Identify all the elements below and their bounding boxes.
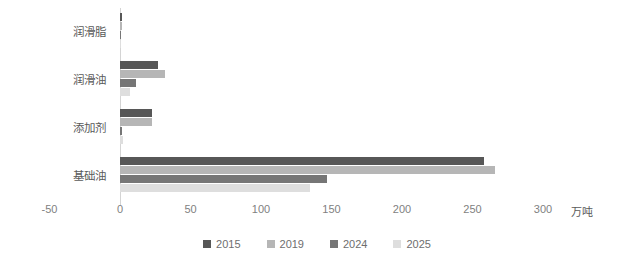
bar-2019-润滑脂 xyxy=(120,22,122,30)
chart-legend: 2015201920242025 xyxy=(0,238,634,250)
bar-2019-基础油 xyxy=(120,166,495,174)
category-label: 添加剂 xyxy=(0,122,114,135)
bar-group xyxy=(120,108,634,148)
x-tick-100: 100 xyxy=(252,203,270,215)
bar-2019-润滑油 xyxy=(120,70,165,78)
bar-2024-润滑油 xyxy=(120,79,136,87)
x-tick-150: 150 xyxy=(322,203,340,215)
x-tick--50: -50 xyxy=(42,203,58,215)
legend-item-2024[interactable]: 2024 xyxy=(330,238,367,250)
bar-2015-基础油 xyxy=(120,157,484,165)
x-tick-0: 0 xyxy=(117,203,123,215)
legend-swatch-icon xyxy=(203,240,211,248)
legend-label: 2025 xyxy=(406,238,430,250)
category-label: 润滑油 xyxy=(0,74,114,87)
x-axis-unit-label: 万吨 xyxy=(571,203,593,219)
bar-2025-润滑脂 xyxy=(120,40,121,48)
bar-2024-基础油 xyxy=(120,175,327,183)
legend-label: 2015 xyxy=(216,238,240,250)
legend-item-2015[interactable]: 2015 xyxy=(203,238,240,250)
bar-2019-添加剂 xyxy=(120,118,152,126)
legend-swatch-icon xyxy=(330,240,338,248)
legend-item-2019[interactable]: 2019 xyxy=(267,238,304,250)
legend-item-2025[interactable]: 2025 xyxy=(393,238,430,250)
category-label: 基础油 xyxy=(0,170,114,183)
category-band: 添加剂 xyxy=(0,104,634,152)
bar-2024-添加剂 xyxy=(120,127,122,135)
x-axis-tick-labels: 万吨 -50050100150200250300 xyxy=(0,203,634,225)
legend-label: 2019 xyxy=(280,238,304,250)
x-tick-50: 50 xyxy=(184,203,196,215)
category-band: 润滑油 xyxy=(0,56,634,104)
x-tick-200: 200 xyxy=(393,203,411,215)
plot-area: 润滑脂润滑油添加剂基础油 xyxy=(0,0,634,205)
bar-2025-基础油 xyxy=(120,184,310,192)
legend-label: 2024 xyxy=(343,238,367,250)
bar-2025-添加剂 xyxy=(120,136,123,144)
bar-group xyxy=(120,12,634,52)
legend-swatch-icon xyxy=(393,240,401,248)
x-tick-250: 250 xyxy=(463,203,481,215)
x-tick-300: 300 xyxy=(534,203,552,215)
legend-swatch-icon xyxy=(267,240,275,248)
bar-2015-润滑油 xyxy=(120,61,158,69)
bar-2015-添加剂 xyxy=(120,109,152,117)
bar-2025-润滑油 xyxy=(120,88,130,96)
category-band: 润滑脂 xyxy=(0,8,634,56)
bar-2015-润滑脂 xyxy=(120,13,122,21)
bar-chart: 润滑脂润滑油添加剂基础油 万吨 -50050100150200250300 20… xyxy=(0,0,634,280)
bar-group xyxy=(120,60,634,100)
category-label: 润滑脂 xyxy=(0,26,114,39)
bar-2024-润滑脂 xyxy=(120,31,121,39)
bar-group xyxy=(120,156,634,196)
category-band: 基础油 xyxy=(0,152,634,200)
